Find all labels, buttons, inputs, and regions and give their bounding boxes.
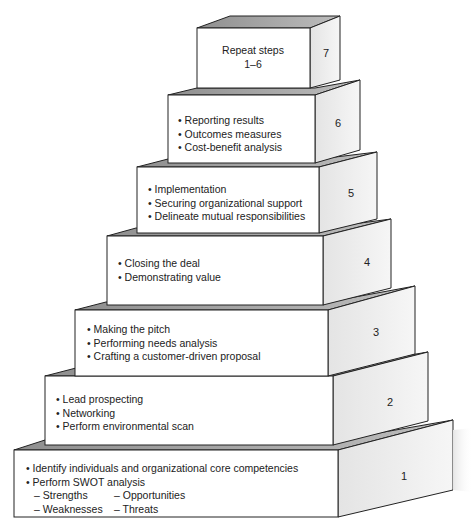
step-7-line: Repeat steps [207, 44, 299, 58]
step-1-text: • Identify individuals and organizationa… [26, 462, 298, 516]
pyramid-graphic [0, 0, 473, 530]
bullet-item: • Reporting results [178, 114, 282, 128]
step-7-number: 7 [323, 47, 329, 59]
bullet-item: • Cost-benefit analysis [178, 141, 282, 155]
bullet-item: • Perform SWOT analysis [26, 476, 298, 490]
step-3-text: • Making the pitch • Performing needs an… [87, 323, 261, 364]
bullet-item: • Closing the deal [118, 257, 221, 271]
step-6-number: 6 [335, 117, 341, 129]
step-4-number: 4 [364, 256, 370, 268]
step-7-text: Repeat steps 1–6 [207, 44, 299, 71]
sub-item: – Strengths [34, 489, 114, 503]
step-7-line: 1–6 [207, 58, 299, 72]
sub-item: – Weaknesses [34, 503, 114, 517]
step-5-text: • Implementation • Securing organization… [148, 183, 305, 224]
bullet-item: • Outcomes measures [178, 128, 282, 142]
bullet-item: • Identify individuals and organizationa… [26, 462, 298, 476]
step-2-number: 2 [387, 396, 393, 408]
bullet-item: • Perform environmental scan [56, 420, 194, 434]
step-1-number: 1 [401, 470, 407, 482]
bullet-item: • Lead prospecting [56, 393, 194, 407]
bullet-item: • Performing needs analysis [87, 337, 261, 351]
sub-item: – Threats [114, 503, 158, 517]
step-2-text: • Lead prospecting • Networking • Perfor… [56, 393, 194, 434]
sub-item-row: – Strengths– Opportunities [26, 489, 298, 503]
step-5-number: 5 [348, 187, 354, 199]
bullet-item: • Making the pitch [87, 323, 261, 337]
bullet-item: • Demonstrating value [118, 271, 221, 285]
bullet-item: • Crafting a customer-driven proposal [87, 350, 261, 364]
sub-item: – Opportunities [114, 489, 185, 503]
bullet-item: • Implementation [148, 183, 305, 197]
bullet-item: • Securing organizational support [148, 197, 305, 211]
step-4-text: • Closing the deal • Demonstrating value [118, 257, 221, 284]
step-3-number: 3 [373, 326, 379, 338]
bullet-item: • Networking [56, 407, 194, 421]
bullet-item: • Delineate mutual responsibilities [148, 210, 305, 224]
step-6-text: • Reporting results • Outcomes measures … [178, 114, 282, 155]
sub-item-row: – Weaknesses– Threats [26, 503, 298, 517]
